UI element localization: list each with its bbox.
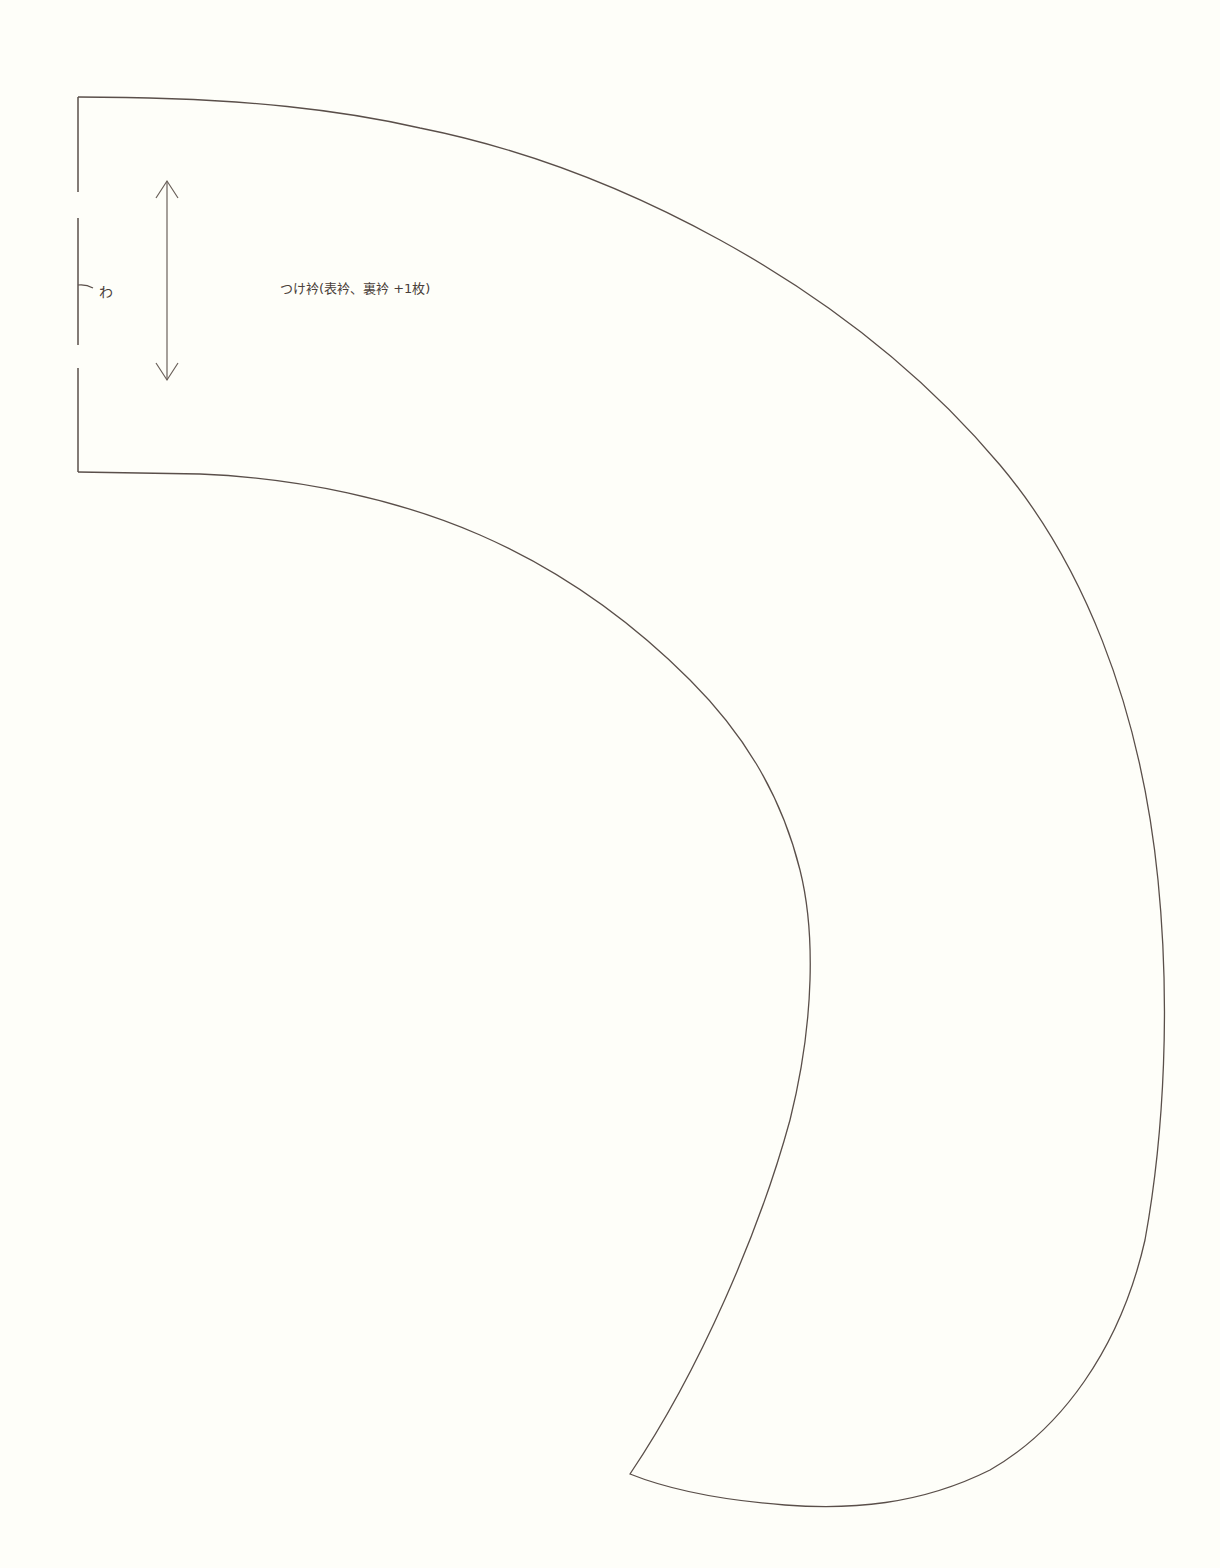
grainline-arrow-icon bbox=[156, 181, 178, 380]
fold-mark-tick bbox=[78, 285, 93, 288]
collar-outline bbox=[78, 97, 1164, 1507]
piece-label: つけ衿(表衿、裏衿 +1枚) bbox=[280, 278, 430, 297]
collar-pattern bbox=[0, 0, 1220, 1568]
fold-label: わ bbox=[99, 281, 113, 301]
